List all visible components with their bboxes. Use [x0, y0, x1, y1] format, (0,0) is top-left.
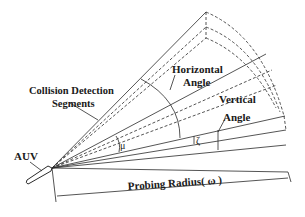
ray-lower2	[52, 145, 286, 168]
auv-label: AUV	[14, 150, 38, 162]
collision-label-2: Segments	[52, 98, 95, 109]
horizontal-angle-arc	[141, 79, 180, 138]
zeta-symbol: ζ	[196, 135, 200, 147]
vertical-angle-label: Vertical	[219, 93, 256, 105]
mu-symbol: μ	[120, 140, 125, 151]
auv-leader	[30, 162, 42, 171]
vertical-angle-label-2: Angle	[223, 111, 251, 123]
ray-bottom	[52, 168, 288, 172]
horizontal-leader	[170, 75, 175, 90]
horizontal-angle-label-2: Angle	[183, 76, 211, 88]
probing-sector-diagram: Horizontal Angle Collision Detection Seg…	[0, 0, 305, 217]
ray-mid	[52, 116, 285, 168]
collision-label: Collision Detection	[29, 85, 114, 96]
probing-radius-label: Probing Radius( ω )	[127, 173, 222, 193]
horizontal-angle-label: Horizontal	[172, 63, 223, 75]
